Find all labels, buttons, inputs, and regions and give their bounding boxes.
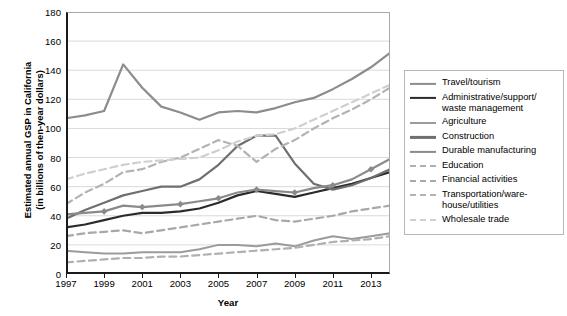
legend-swatch-icon — [410, 132, 436, 143]
x-axis-tick-mark — [66, 274, 67, 278]
x-axis-tick-mark — [180, 274, 181, 278]
y-axis-tick-label: 180 — [45, 7, 61, 18]
x-axis-tick-label: 1999 — [93, 278, 114, 289]
legend-swatch-icon — [410, 117, 436, 128]
y-axis-tick-label: 80 — [50, 152, 61, 163]
legend-label: Financial activities — [442, 174, 517, 185]
legend-label: Agriculture — [442, 116, 486, 127]
x-axis-tick-mark — [295, 274, 296, 278]
legend-label: Education — [442, 160, 483, 171]
x-axis-tick-label: 2009 — [284, 278, 305, 289]
legend-item[interactable]: Wholesale trade — [410, 214, 557, 226]
legend-swatch-icon — [410, 190, 436, 201]
chart-legend: Travel/tourismAdministrative/support/was… — [404, 70, 564, 235]
x-axis-tick-mark — [257, 274, 258, 278]
x-axis-tick-mark — [333, 274, 334, 278]
y-axis-tick-label: 140 — [45, 65, 61, 76]
legend-label: Travel/tourism — [442, 77, 501, 88]
x-axis-tick-mark — [371, 274, 372, 278]
legend-label: Administrative/support/waste management — [442, 92, 537, 114]
x-axis-tick-label: 2011 — [322, 278, 343, 289]
x-axis-tick-mark — [218, 274, 219, 278]
legend-label-line2: house/utilities — [442, 200, 527, 211]
x-axis-tick-label: 2005 — [208, 278, 229, 289]
legend-item[interactable]: Travel/tourism — [410, 77, 557, 89]
legend-item[interactable]: Financial activities — [410, 174, 557, 186]
legend-swatch-icon — [410, 175, 436, 186]
x-axis-title: Year — [66, 297, 390, 308]
legend-item[interactable]: Durable manufacturing — [410, 145, 557, 157]
legend-item[interactable]: Administrative/support/waste management — [410, 92, 557, 114]
legend-label: Durable manufacturing — [442, 145, 536, 156]
x-axis-tick-label: 1997 — [55, 278, 76, 289]
x-axis-tick-label: 2003 — [170, 278, 191, 289]
legend-swatch-icon — [410, 146, 436, 157]
x-axis-tick-label: 2001 — [132, 278, 153, 289]
plot-area: 020406080100120140160180 199719992001200… — [66, 12, 390, 274]
legend-label: Transportation/ware-house/utilities — [442, 189, 527, 211]
y-axis-tick-label: 160 — [45, 36, 61, 47]
legend-swatch-icon — [410, 93, 436, 104]
y-axis-title: Estimated annual GSP in California (in b… — [22, 10, 46, 270]
legend-label-line2: waste management — [442, 103, 537, 114]
legend-swatch-icon — [410, 78, 436, 89]
chart-figure: Estimated annual GSP in California (in b… — [0, 0, 567, 316]
legend-swatch-icon — [410, 215, 436, 226]
legend-item[interactable]: Construction — [410, 131, 557, 143]
legend-item[interactable]: Agriculture — [410, 116, 557, 128]
y-axis-tick-label: 120 — [45, 94, 61, 105]
y-axis-tick-label: 20 — [50, 239, 61, 250]
x-axis-tick-mark — [142, 274, 143, 278]
x-axis-tick-label: 2013 — [360, 278, 381, 289]
y-axis-tick-label: 60 — [50, 181, 61, 192]
legend-label: Wholesale trade — [442, 214, 509, 225]
legend-label-line1: Transportation/ware- — [442, 189, 527, 200]
legend-swatch-icon — [410, 161, 436, 172]
legend-item[interactable]: Transportation/ware-house/utilities — [410, 189, 557, 211]
x-axis-tick-mark — [104, 274, 105, 278]
y-axis-tick-label: 100 — [45, 123, 61, 134]
y-axis-title-line2: (in billions of then-year dollars) — [34, 10, 46, 270]
y-axis-title-line1: Estimated annual GSP in California — [22, 10, 34, 270]
x-axis-tick-label: 2007 — [246, 278, 267, 289]
legend-label-line1: Administrative/support/ — [442, 92, 537, 103]
legend-label: Construction — [442, 131, 494, 142]
plot-frame — [66, 12, 390, 274]
y-axis-tick-label: 40 — [50, 210, 61, 221]
legend-item[interactable]: Education — [410, 160, 557, 172]
